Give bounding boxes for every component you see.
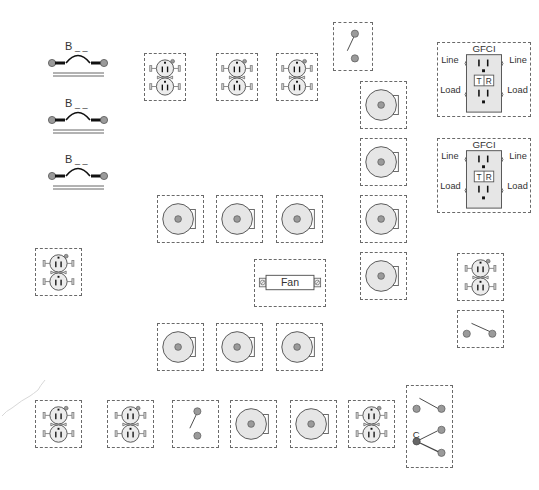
light-fixture-icon — [361, 82, 406, 128]
duplex-receptacle-7[interactable] — [107, 400, 154, 448]
duplex-outlet-icon — [349, 401, 394, 447]
fan-label: Fan — [281, 276, 299, 288]
light-fixture-icon — [277, 324, 322, 370]
duplex-outlet-icon — [145, 54, 185, 100]
duplex-receptacle-5[interactable] — [457, 253, 504, 301]
circuit-breaker[interactable]: B _ _ — [48, 97, 108, 137]
light-fixture-4[interactable] — [360, 252, 407, 300]
duplex-outlet-icon — [217, 54, 257, 100]
duplex-outlet-icon — [36, 249, 81, 295]
light-fixture-6[interactable] — [216, 195, 263, 243]
gfci-load-right: Load — [507, 85, 528, 95]
single-pole-switch-1[interactable] — [333, 22, 373, 71]
duplex-receptacle-3[interactable] — [276, 53, 318, 101]
breaker-icon: B _ _ — [48, 40, 108, 80]
switch-icon — [173, 401, 218, 447]
gfci-line-left: Line — [441, 55, 458, 65]
gfci-receptacle[interactable]: GFCI Line Line Load Load T R — [437, 42, 531, 117]
three-way-switch[interactable]: C — [406, 385, 453, 468]
light-fixture-icon — [361, 196, 406, 242]
duplex-outlet-icon — [36, 401, 81, 447]
light-fixture-icon — [158, 196, 203, 242]
light-fixture-icon — [361, 139, 406, 185]
gfci-icon: GFCI Line Line Load Load T R — [438, 43, 530, 116]
light-fixture-10[interactable] — [276, 323, 323, 371]
breaker-suffix: _ _ — [74, 155, 89, 165]
light-fixture-3[interactable] — [360, 195, 407, 243]
gfci-line-right: Line — [509, 151, 526, 161]
light-fixture-icon — [217, 324, 262, 370]
duplex-receptacle-1[interactable] — [144, 53, 186, 101]
switch-icon — [458, 311, 503, 347]
duplex-receptacle-2[interactable] — [216, 53, 258, 101]
light-fixture-icon — [361, 253, 406, 299]
breaker-icon: B _ _ — [48, 97, 108, 137]
light-fixture-8[interactable] — [157, 323, 204, 371]
breaker-suffix: _ _ — [74, 99, 89, 109]
light-fixture-icon — [217, 196, 262, 242]
light-fixture-2[interactable] — [360, 138, 407, 186]
light-fixture-icon — [291, 401, 336, 447]
duplex-outlet-icon — [108, 401, 153, 447]
gfci-load-left: Load — [440, 181, 461, 191]
breaker-label: B — [65, 40, 72, 52]
light-fixture-11[interactable] — [230, 400, 277, 448]
light-fixture-icon — [231, 401, 276, 447]
test-button-label: T — [477, 173, 482, 182]
gfci-load-left: Load — [440, 85, 461, 95]
duplex-outlet-icon — [277, 54, 317, 100]
gfci-line-left: Line — [441, 151, 458, 161]
breaker-label: B — [65, 153, 72, 165]
gfci-title: GFCI — [472, 139, 495, 150]
light-fixture-9[interactable] — [216, 323, 263, 371]
breaker-label: B — [65, 97, 72, 109]
single-pole-switch-3[interactable] — [457, 310, 504, 348]
breaker-icon: B _ _ — [48, 153, 108, 193]
circuit-breaker[interactable]: B _ _ — [48, 153, 108, 193]
breaker-suffix: _ _ — [74, 42, 89, 52]
gfci-icon: GFCI Line Line Load Load T R — [438, 139, 530, 212]
gfci-load-right: Load — [507, 181, 528, 191]
duplex-outlet-icon — [458, 254, 503, 300]
duplex-receptacle-8[interactable] — [348, 400, 395, 448]
reset-button-label: R — [486, 173, 492, 182]
duplex-receptacle-4[interactable] — [35, 248, 82, 296]
light-fixture-12[interactable] — [290, 400, 337, 448]
fan[interactable]: Fan — [254, 259, 326, 307]
gfci-line-right: Line — [509, 55, 526, 65]
light-fixture-7[interactable] — [276, 195, 323, 243]
switch-icon — [334, 23, 372, 70]
three-way-switch-icon: C — [407, 386, 452, 467]
fan-icon: Fan — [255, 260, 325, 306]
light-fixture-icon — [277, 196, 322, 242]
light-fixture-1[interactable] — [360, 81, 407, 129]
duplex-receptacle-6[interactable] — [35, 400, 82, 448]
light-fixture-5[interactable] — [157, 195, 204, 243]
circuit-breaker[interactable]: B _ _ — [48, 40, 108, 80]
gfci-title: GFCI — [472, 43, 495, 54]
reset-button-label: R — [486, 77, 492, 86]
light-fixture-icon — [158, 324, 203, 370]
gfci-receptacle[interactable]: GFCI Line Line Load Load T R — [437, 138, 531, 213]
single-pole-switch-2[interactable] — [172, 400, 219, 448]
test-button-label: T — [477, 77, 482, 86]
